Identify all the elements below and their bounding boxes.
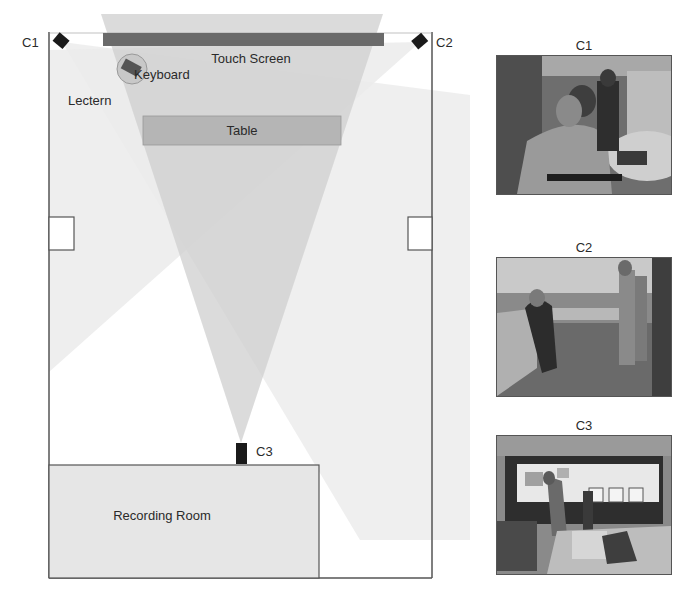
camera-view-c1-title: C1 (496, 37, 672, 55)
table-label: Table (226, 123, 257, 138)
right-door (408, 217, 432, 250)
camera-view-c2-title: C2 (496, 239, 672, 257)
camera-view-c3-photo (496, 435, 672, 575)
camera-view-c1-photo (496, 55, 672, 195)
camera-view-c3-title: C3 (496, 417, 672, 435)
touch-screen-label: Touch Screen (211, 51, 291, 66)
touch-screen (103, 33, 384, 46)
camera-c3-label: C3 (256, 444, 273, 459)
camera-c2-label: C2 (436, 35, 453, 50)
camera-view-c3: C3 (496, 417, 672, 575)
camera-c3-icon (236, 443, 247, 464)
floor-plan-diagram: Touch Screen Keyboard Lectern Table Reco… (0, 0, 470, 601)
camera-c1-label: C1 (22, 35, 39, 50)
lectern-label: Lectern (68, 93, 111, 108)
camera-view-c1: C1 (496, 37, 672, 195)
camera-view-c2: C2 (496, 239, 672, 397)
left-door (49, 217, 74, 250)
recording-room-label: Recording Room (113, 508, 211, 523)
camera-view-c2-photo (496, 257, 672, 397)
keyboard-label: Keyboard (134, 67, 190, 82)
